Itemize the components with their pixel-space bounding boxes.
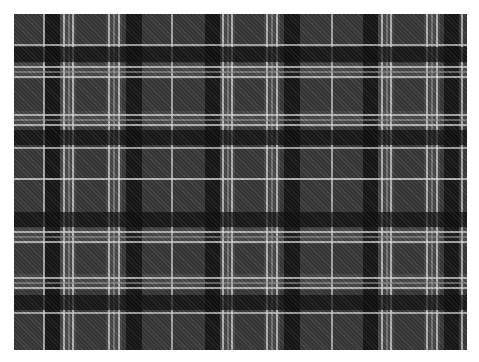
horizontal-stripe bbox=[14, 124, 467, 126]
horizontal-stripe bbox=[14, 212, 467, 227]
tartan-fabric bbox=[14, 14, 467, 350]
horizontal-stripe bbox=[14, 282, 467, 284]
horizontal-stripe bbox=[14, 44, 467, 46]
horizontal-stripes bbox=[14, 14, 467, 350]
horizontal-stripe bbox=[14, 287, 467, 289]
horizontal-stripe bbox=[14, 277, 467, 279]
horizontal-stripe bbox=[14, 231, 467, 233]
horizontal-stripe bbox=[14, 66, 467, 68]
horizontal-stripe bbox=[14, 241, 467, 243]
horizontal-stripe bbox=[14, 178, 467, 180]
horizontal-stripe bbox=[14, 147, 467, 149]
horizontal-stripe bbox=[14, 47, 467, 62]
horizontal-stripe bbox=[14, 76, 467, 78]
horizontal-stripe bbox=[14, 295, 467, 310]
horizontal-stripe bbox=[14, 114, 467, 116]
horizontal-stripe bbox=[14, 130, 467, 145]
horizontal-stripe bbox=[14, 119, 467, 121]
horizontal-stripe bbox=[14, 312, 467, 314]
horizontal-stripe bbox=[14, 236, 467, 238]
horizontal-stripe bbox=[14, 71, 467, 73]
